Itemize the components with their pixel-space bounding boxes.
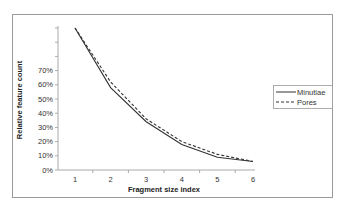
- x-tick-label: 2: [109, 175, 113, 184]
- legend-label-pores: Pores: [297, 98, 317, 107]
- line-chart: 0%10%20%30%40%50%60%70% 123456 Relative …: [0, 0, 343, 213]
- y-axis-title: Relative feature count: [15, 60, 24, 139]
- legend-label-minutiae: Minutiae: [297, 88, 325, 97]
- y-tick-label: 20%: [38, 137, 53, 146]
- x-tick-label: 6: [251, 175, 255, 184]
- y-tick-label: 30%: [38, 123, 53, 132]
- x-tick-label: 1: [73, 175, 77, 184]
- x-axis-title: Fragment size index: [128, 185, 201, 194]
- y-tick-label: 0%: [42, 166, 53, 175]
- y-tick-label: 50%: [38, 95, 53, 104]
- y-tick-label: 70%: [38, 66, 53, 75]
- y-tick-label: 10%: [38, 151, 53, 160]
- x-tick-label: 3: [144, 175, 148, 184]
- y-tick-label: 60%: [38, 80, 53, 89]
- x-tick-label: 5: [215, 175, 219, 184]
- y-tick-label: 40%: [38, 109, 53, 118]
- legend: Minutiae Pores: [274, 86, 333, 109]
- x-tick-label: 4: [180, 175, 184, 184]
